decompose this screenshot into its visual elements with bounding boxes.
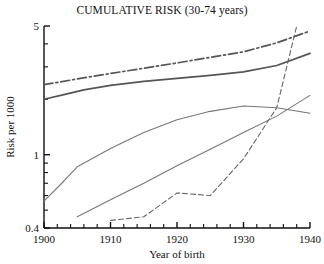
series-line-solid-upper	[44, 53, 310, 99]
x-axis-title: Year of birth	[149, 248, 205, 260]
data-series-group	[44, 26, 310, 220]
chart-figure: CUMULATIVE RISK (30-74 years) 510.4 1900…	[0, 0, 324, 264]
x-tick-label: 1940	[299, 233, 322, 245]
x-axis-tick-labels: 19001910192019301940	[33, 233, 322, 245]
y-axis-title: Risk per 1000	[4, 96, 16, 158]
y-tick-label: 5	[34, 20, 40, 32]
plot-area: 510.4 19001910192019301940 Risk per 1000…	[0, 0, 324, 264]
x-tick-label: 1910	[100, 233, 123, 245]
axes	[44, 26, 310, 228]
x-tick-label: 1930	[233, 233, 256, 245]
series-line-dash-dot-upper	[44, 31, 310, 85]
y-axis-tick-labels: 510.4	[25, 20, 39, 234]
series-line-straight-rising	[77, 95, 310, 216]
x-tick-label: 1920	[166, 233, 189, 245]
y-tick-label: 1	[34, 149, 40, 161]
series-line-thin-rise-then-fall	[44, 106, 310, 201]
x-tick-label: 1900	[33, 233, 56, 245]
series-line-dashed-lower	[111, 26, 297, 220]
x-axis-ticks	[44, 222, 310, 228]
